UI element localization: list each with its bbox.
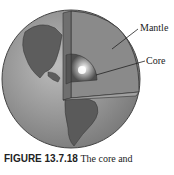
core-label: Core <box>146 55 165 66</box>
mantle-label: Mantle <box>140 22 168 33</box>
figure-caption: FIGURE 13.7.18 The core and <box>4 153 174 164</box>
earth-cutaway-figure: Mantle Core FIGURE 13.7.18 The core and <box>0 0 174 175</box>
caption-text: The core and <box>80 153 132 164</box>
figure-number: FIGURE 13.7.18 <box>4 153 78 164</box>
mantle-cutaway <box>71 11 139 98</box>
inner-core-highlight <box>78 66 86 74</box>
core-left-face <box>66 54 71 84</box>
